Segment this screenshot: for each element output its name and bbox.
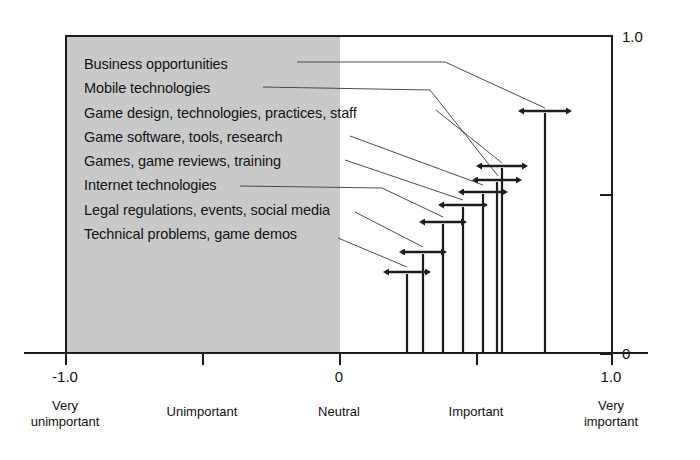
- x-tick-half: [476, 354, 478, 365]
- plot-frame-top-border: [65, 35, 612, 37]
- x-tick-neg-one: [65, 354, 67, 365]
- scale-word-neutral: Neutral: [318, 404, 360, 420]
- series-label-internet-technologies: Internet technologies: [84, 177, 217, 193]
- series-label-business-opportunities: Business opportunities: [84, 56, 228, 72]
- series-label-game-design: Game design, technologies, practices, st…: [84, 105, 357, 121]
- scale-word-important: Important: [449, 404, 504, 420]
- plot-frame-left-border: [65, 35, 67, 353]
- y-tick-label-zero: 0: [622, 345, 630, 362]
- series-label-mobile-technologies: Mobile technologies: [84, 80, 210, 96]
- series-label-game-software: Game software, tools, research: [84, 129, 282, 145]
- y-tick-half: [600, 194, 613, 196]
- series-label-games-reviews: Games, game reviews, training: [84, 153, 281, 169]
- scale-word-very-important: Very important: [584, 398, 638, 431]
- x-tick-neg-half: [202, 354, 204, 365]
- series-label-technical-problems: Technical problems, game demos: [84, 226, 297, 242]
- y-tick-zero: [600, 353, 613, 355]
- scale-word-very-unimportant: Very unimportant: [31, 398, 100, 431]
- scale-word-unimportant: Unimportant: [167, 404, 238, 420]
- x-tick-label-zero: 0: [335, 368, 343, 385]
- x-tick-label-one: 1.0: [601, 368, 622, 385]
- x-tick-label-neg-one: -1.0: [52, 368, 78, 385]
- chart-root: -1.0 0 1.0 1.0 0 Very unimportant Unimpo…: [0, 0, 700, 460]
- x-axis-line: [24, 352, 648, 354]
- y-tick-label-one: 1.0: [622, 28, 643, 45]
- x-tick-zero: [339, 354, 341, 365]
- series-label-legal-regulations: Legal regulations, events, social media: [84, 202, 330, 218]
- y-tick-one: [600, 35, 613, 37]
- x-tick-one: [611, 354, 613, 365]
